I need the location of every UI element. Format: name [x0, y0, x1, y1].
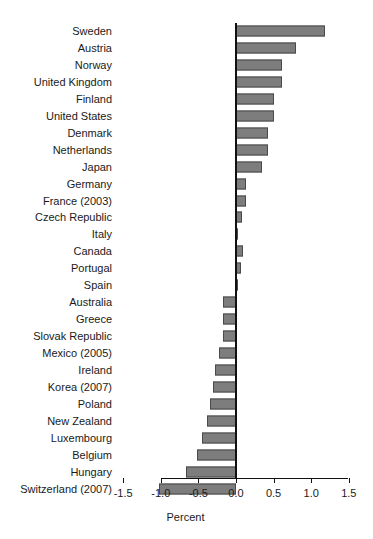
axis-tick [198, 478, 199, 483]
axis-tick-label: 1.5 [329, 487, 369, 499]
category-label: Korea (2007) [48, 381, 112, 392]
category-label: Denmark [67, 127, 112, 138]
bar [236, 110, 274, 121]
axis-tick [311, 478, 312, 483]
category-label: Switzerland (2007) [20, 483, 112, 494]
category-label: Czech Republic [35, 212, 112, 223]
bar [215, 365, 236, 376]
bar [236, 178, 246, 189]
bar [202, 432, 236, 443]
category-label: New Zealand [47, 415, 112, 426]
bar [219, 348, 236, 359]
category-label: Hungary [70, 466, 112, 477]
bar [236, 195, 246, 206]
bar [207, 415, 236, 426]
value-axis-line [161, 478, 348, 479]
bar [197, 449, 236, 460]
category-label: Greece [76, 314, 112, 325]
axis-tick [236, 478, 237, 483]
axis-tick-label: 0.5 [254, 487, 294, 499]
category-label: France (2003) [43, 195, 112, 206]
axis-tick [274, 478, 275, 483]
category-label: Sweden [72, 26, 112, 37]
category-label: Portugal [71, 263, 112, 274]
category-label: Australia [69, 297, 112, 308]
axis-tick-label: 1.0 [291, 487, 331, 499]
x-axis-title: Percent [0, 511, 373, 523]
category-label: Japan [82, 161, 112, 172]
x-axis-title-text: Percent [167, 511, 205, 523]
category-label: Finland [76, 93, 112, 104]
category-label: Poland [78, 398, 112, 409]
axis-tick [161, 478, 162, 483]
category-label: United States [46, 110, 112, 121]
category-label: United Kingdom [34, 76, 112, 87]
category-label: Slovak Republic [33, 331, 112, 342]
axis-tick [349, 478, 350, 483]
category-label: Belgium [72, 449, 112, 460]
category-label: Austria [78, 42, 112, 53]
axis-tick-label: -0.5 [178, 487, 218, 499]
bar-chart: SwedenAustriaNorwayUnited KingdomFinland… [0, 0, 373, 539]
category-label: Norway [75, 59, 112, 70]
category-label: Netherlands [53, 144, 112, 155]
bar [236, 161, 262, 172]
axis-tick-label: -1.0 [141, 487, 181, 499]
category-label: Italy [92, 229, 112, 240]
bar [213, 381, 236, 392]
bar [210, 398, 236, 409]
axis-tick [123, 478, 124, 483]
category-label: Mexico (2005) [42, 348, 112, 359]
axis-tick-label: 0.0 [216, 487, 256, 499]
category-label: Spain [84, 280, 112, 291]
axis-tick-label: -1.5 [103, 487, 143, 499]
category-label: Luxembourg [51, 432, 112, 443]
bar [236, 42, 296, 53]
category-label: Germany [67, 178, 112, 189]
bar [236, 144, 268, 155]
zero-reference-line [235, 23, 237, 479]
bar [236, 127, 268, 138]
bar [236, 76, 282, 87]
bar [236, 246, 243, 257]
category-label: Canada [73, 246, 112, 257]
bar [236, 26, 325, 37]
bar [186, 466, 236, 477]
category-label: Ireland [78, 365, 112, 376]
bar [236, 59, 282, 70]
bar [236, 93, 274, 104]
